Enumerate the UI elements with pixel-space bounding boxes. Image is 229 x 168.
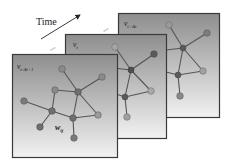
node — [180, 45, 186, 51]
graph-frame-front: vt-Δt+1 wij — [13, 55, 118, 158]
node — [52, 87, 59, 94]
node — [177, 93, 184, 100]
node — [75, 89, 82, 96]
ellipsis-left: ... — [47, 42, 57, 53]
node — [49, 108, 56, 115]
node — [204, 30, 211, 37]
node — [59, 66, 66, 73]
temporal-graph-diagram: Time ... ... vt+Δt vt — [0, 0, 229, 168]
time-label: Time — [36, 16, 57, 27]
node — [151, 51, 158, 58]
node — [124, 114, 131, 121]
node — [112, 44, 119, 51]
node — [99, 74, 106, 81]
node — [148, 88, 155, 95]
node — [95, 112, 102, 119]
node — [71, 135, 78, 142]
node — [70, 115, 77, 122]
node — [200, 68, 207, 75]
node — [128, 67, 134, 73]
node — [37, 124, 44, 131]
ellipsis-right: ... — [100, 23, 110, 34]
node — [175, 72, 181, 78]
node — [21, 98, 28, 105]
node — [122, 94, 128, 100]
node — [166, 22, 173, 29]
